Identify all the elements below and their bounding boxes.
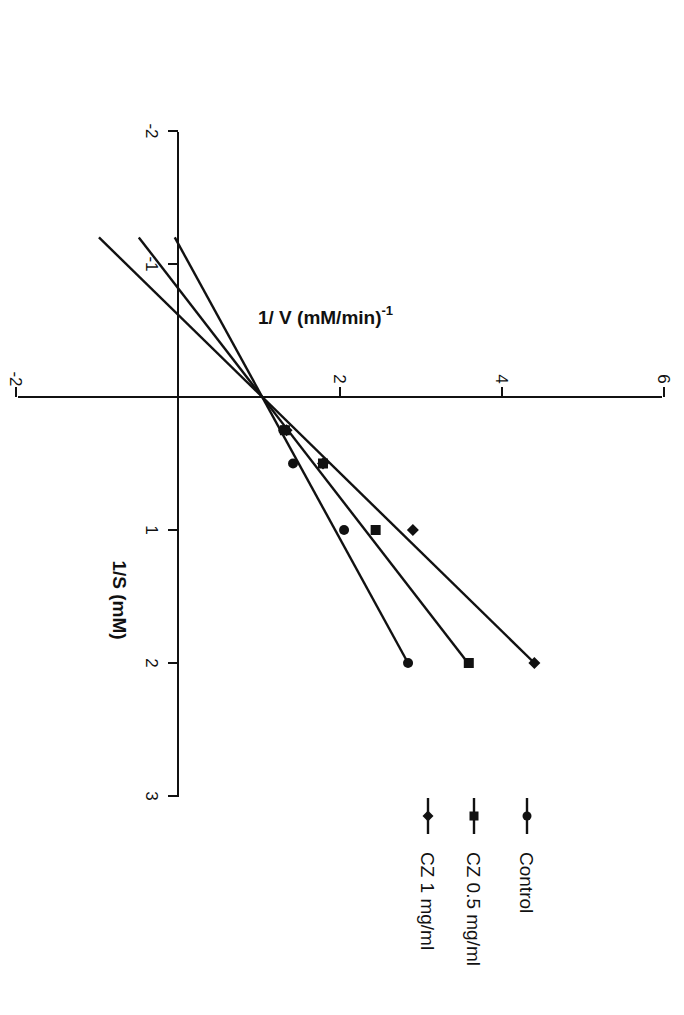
fit-line [139,237,468,663]
legend-label: CZ 1 mg/ml [417,852,438,950]
square-marker-icon [371,525,381,535]
y-tick-label: -2 [6,371,25,386]
legend-label: CZ 0.5 mg/ml [463,852,484,966]
y-tick-label: 6 [654,374,673,383]
x-tick-label: -2 [142,123,161,138]
x-axis-label: 1/S (mM) [109,560,130,639]
circle-marker-icon [403,658,413,668]
circle-legend-icon [523,812,532,821]
fit-line [175,237,408,663]
y-tick-label: 4 [492,374,511,383]
y-axis-1-over-v: -2246 1/ V (mM/min)-1 [6,303,673,397]
x-tick-label: 1 [142,525,161,534]
legend-label: Control [516,852,537,913]
y-axis-label: 1/ V (mM/min)-1 [258,303,393,328]
y-tick-label: 2 [330,374,349,383]
legend: ControlCZ 0.5 mg/mlCZ 1 mg/ml [417,798,537,966]
x-tick-label: 3 [142,791,161,800]
square-legend-icon [470,812,479,821]
fit-lines [99,237,534,663]
legend-item: Control [516,798,537,913]
x-tick-label: 2 [142,658,161,667]
legend-item: CZ 0.5 mg/ml [463,798,484,966]
x-axis-1-over-s: -2-1123 1/S (mM) [109,123,178,800]
square-marker-icon [464,658,474,668]
lineweaver-burk-chart: -2-1123 1/S (mM) -2246 1/ V (mM/min)-1 C… [0,0,684,1015]
circle-marker-icon [339,525,349,535]
circle-marker-icon [288,459,298,469]
legend-item: CZ 1 mg/ml [417,798,438,950]
fit-line [99,237,534,663]
diamond-marker-icon [407,524,419,536]
data-points [278,424,540,669]
diamond-legend-icon [423,811,434,822]
